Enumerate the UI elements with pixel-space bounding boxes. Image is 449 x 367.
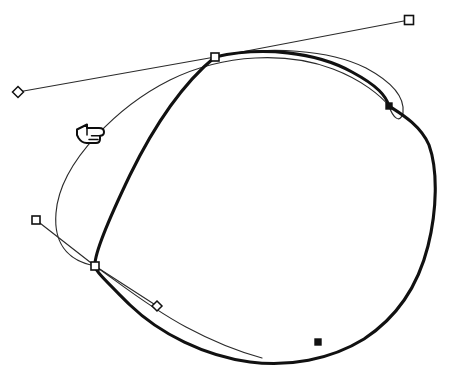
anchor-point-group[interactable] xyxy=(91,53,392,345)
edited-thick-curve-group[interactable] xyxy=(95,52,435,364)
anchor-lower-left[interactable] xyxy=(91,262,99,270)
path-drawing-surface[interactable] xyxy=(0,0,449,367)
tangent-line-group xyxy=(18,20,409,306)
handle-diamond-lower[interactable] xyxy=(152,301,162,311)
pointing-hand-cursor xyxy=(77,125,104,144)
anchor-bottom[interactable] xyxy=(315,339,321,345)
handle-diamond-left[interactable] xyxy=(13,87,24,98)
handle-square-left[interactable] xyxy=(32,216,40,224)
handle-square-top-right[interactable] xyxy=(405,16,414,25)
original-thin-lower-arc[interactable] xyxy=(95,266,262,358)
original-thin-curve-group[interactable] xyxy=(56,50,403,358)
original-thin-outline[interactable] xyxy=(56,50,403,266)
anchor-right[interactable] xyxy=(386,103,392,109)
edited-thick-outline[interactable] xyxy=(95,52,435,364)
tangent-lower-upper xyxy=(36,220,95,266)
vector-editor-canvas[interactable] xyxy=(0,0,449,367)
anchor-top[interactable] xyxy=(211,53,219,61)
